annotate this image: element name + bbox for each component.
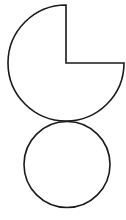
diagram-canvas bbox=[0, 0, 126, 220]
full-circle-shape bbox=[24, 122, 110, 208]
three-quarter-circle-shape bbox=[8, 5, 124, 121]
